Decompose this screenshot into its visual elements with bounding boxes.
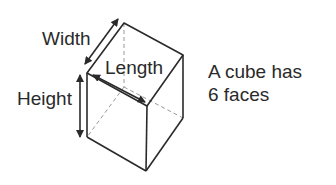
- caption-line-2: 6 faces: [208, 83, 302, 106]
- length-arrow: [93, 75, 145, 102]
- height-label: Height: [17, 89, 72, 109]
- width-label: Width: [42, 29, 91, 49]
- length-label: Length: [105, 58, 163, 78]
- caption-line-1: A cube has: [208, 60, 302, 83]
- caption: A cube has 6 faces: [208, 60, 302, 106]
